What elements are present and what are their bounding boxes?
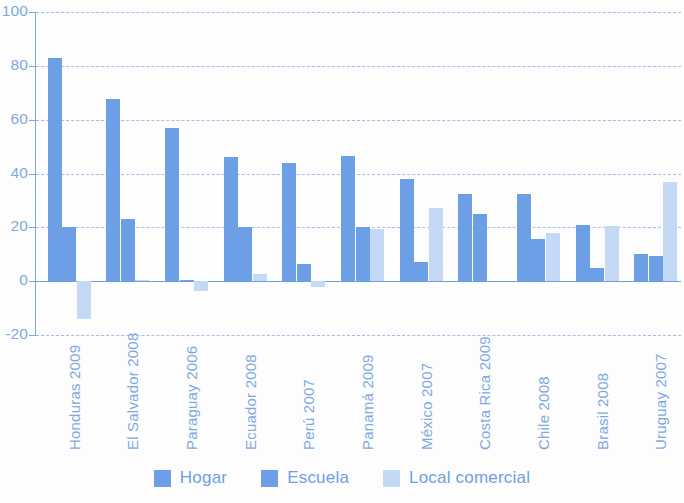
bar-group	[106, 12, 149, 335]
chart-legend: HogarEscuelaLocal comercial	[0, 468, 684, 488]
bar-group	[517, 12, 560, 335]
legend-item[interactable]: Local comercial	[383, 468, 530, 488]
bar	[400, 179, 414, 281]
y-axis-tick-label: 20	[0, 217, 28, 235]
bar-group	[224, 12, 267, 335]
bar-group	[400, 12, 443, 335]
x-axis-tick-label: Ecuador 2008	[242, 354, 259, 450]
bar-group	[48, 12, 91, 335]
x-axis-tick-label: México 2007	[418, 363, 435, 450]
x-axis-tick-label: Panamá 2009	[359, 354, 376, 450]
bar	[135, 280, 149, 281]
x-axis-tick-label: Chile 2008	[535, 376, 552, 450]
bar	[121, 219, 135, 281]
y-axis-labels: -20020406080100	[0, 0, 28, 503]
x-axis-tick-label: Uruguay 2007	[652, 353, 669, 450]
x-axis-tick-label: El Salvador 2008	[124, 333, 141, 450]
x-axis-tick-label: Costa Rica 2009	[476, 336, 493, 450]
legend-item[interactable]: Hogar	[154, 468, 227, 488]
bar-chart: -20020406080100 Honduras 2009El Salvador…	[0, 0, 684, 503]
bar	[297, 264, 311, 281]
y-axis-tick-label: -20	[0, 325, 28, 343]
bar	[517, 194, 531, 281]
bar	[590, 268, 604, 281]
bar	[341, 156, 355, 281]
bar	[414, 262, 428, 281]
y-axis-tick-label: 40	[0, 164, 28, 182]
legend-label: Escuela	[287, 468, 349, 488]
bar	[48, 58, 62, 281]
bar	[77, 281, 91, 319]
bar	[458, 194, 472, 281]
y-axis-tick-label: 100	[0, 2, 28, 20]
bar	[62, 227, 76, 281]
bar	[311, 281, 325, 286]
bar	[546, 233, 560, 281]
bar	[531, 239, 545, 281]
bar	[634, 254, 648, 281]
bar-group	[165, 12, 208, 335]
y-axis-tick-label: 60	[0, 110, 28, 128]
legend-swatch	[383, 470, 400, 487]
legend-label: Hogar	[180, 468, 227, 488]
legend-item[interactable]: Escuela	[261, 468, 349, 488]
bar	[605, 226, 619, 281]
bar	[429, 208, 443, 281]
bar	[576, 225, 590, 282]
bar	[473, 214, 487, 281]
x-axis-tick-label: Brasil 2008	[594, 373, 611, 450]
bar-group	[458, 12, 501, 335]
bar	[663, 182, 677, 282]
plot-area	[36, 12, 681, 335]
bar	[106, 99, 120, 281]
x-axis-tick-label: Perú 2007	[300, 379, 317, 450]
y-axis-tick-label: 0	[0, 271, 28, 289]
bar	[282, 163, 296, 281]
bar	[649, 256, 663, 282]
bar	[253, 274, 267, 281]
bar	[165, 128, 179, 281]
bar	[180, 280, 194, 281]
y-axis-tick-label: 80	[0, 56, 28, 74]
x-axis-tick-label: Paraguay 2006	[183, 346, 200, 450]
legend-swatch	[261, 470, 278, 487]
bar	[370, 229, 384, 281]
bar-group	[576, 12, 619, 335]
bar-group	[341, 12, 384, 335]
bar-group	[634, 12, 677, 335]
bar	[224, 157, 238, 281]
bar	[238, 227, 252, 281]
legend-label: Local comercial	[409, 468, 530, 488]
x-axis-labels: Honduras 2009El Salvador 2008Paraguay 20…	[36, 338, 681, 458]
bar	[194, 281, 208, 290]
legend-swatch	[154, 470, 171, 487]
bar-group	[282, 12, 325, 335]
bar	[356, 227, 370, 281]
x-axis-tick-label: Honduras 2009	[66, 345, 83, 450]
